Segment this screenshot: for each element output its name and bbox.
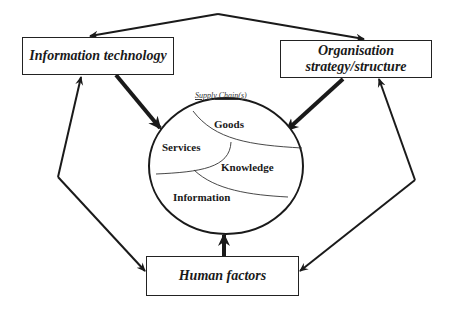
node-human-factors: Human factors bbox=[146, 256, 299, 296]
node-org-label-line2: strategy/structure bbox=[305, 59, 406, 75]
node-information-technology: Information technology bbox=[22, 37, 174, 75]
node-hf-label: Human factors bbox=[179, 268, 267, 284]
segment-information: Information bbox=[173, 191, 230, 203]
segment-goods: Goods bbox=[214, 118, 244, 130]
node-organisation-strategy: Organisation strategy/structure bbox=[280, 40, 432, 78]
edge-org-hf bbox=[300, 79, 415, 271]
supply-chain-title: Supply Chain(s) bbox=[195, 91, 247, 100]
node-org-label-line1: Organisation bbox=[318, 43, 394, 59]
edge-it-hf bbox=[58, 77, 145, 271]
segment-knowledge: Knowledge bbox=[221, 161, 274, 173]
edge-org-supply-chain bbox=[287, 79, 343, 130]
segment-services: Services bbox=[162, 141, 200, 153]
node-it-label: Information technology bbox=[29, 48, 166, 64]
edge-it-org bbox=[90, 14, 364, 39]
edge-it-supply-chain bbox=[116, 75, 160, 128]
diagram-canvas: Information technology Organisation stra… bbox=[0, 0, 453, 314]
